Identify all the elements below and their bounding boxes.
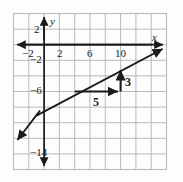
x-axis-label: x (152, 32, 157, 43)
y-tick-label-minus-2: −2 (30, 54, 42, 65)
x-tick-label-10: 10 (115, 48, 126, 59)
run-label: 5 (93, 96, 99, 108)
x-tick-label-2: 2 (57, 48, 63, 59)
x-tick-label-6: 6 (87, 48, 93, 59)
y-axis-label: y (50, 16, 55, 27)
rise-label: 3 (125, 76, 131, 88)
y-tick-label-minus-6: −6 (30, 85, 42, 96)
y-tick-label-2: 2 (34, 24, 40, 35)
graph-figure: y x −2 2 6 10 2 −2 −6 −14 5 3 (0, 0, 183, 182)
coordinate-plane (0, 0, 183, 182)
y-tick-label-minus-14: −14 (30, 147, 47, 158)
